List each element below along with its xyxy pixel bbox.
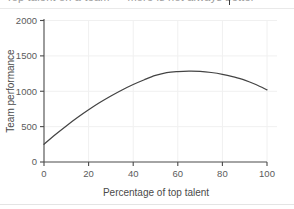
- x-axis-title: Percentage of top talent: [103, 187, 209, 198]
- x-tick-label: 100: [259, 168, 275, 179]
- x-tick-label: 80: [217, 168, 228, 179]
- y-tick-label: 2000: [16, 15, 37, 26]
- x-tick-label: 0: [41, 168, 46, 179]
- y-tick-label: 0: [32, 156, 37, 167]
- x-tick-label: 20: [83, 168, 94, 179]
- y-tick-label: 1000: [16, 86, 37, 97]
- y-axis-title: Team performance: [5, 49, 16, 133]
- team-performance-line-chart: 0500100015002000 020406080100 Team perfo…: [0, 8, 294, 209]
- y-tick-label: 1500: [16, 50, 37, 61]
- chart-screenshot: Top talent on a team — more is not alway…: [0, 0, 294, 209]
- x-tick-label: 40: [128, 168, 139, 179]
- gridlines: [44, 21, 277, 163]
- performance-curve: [44, 71, 267, 144]
- truncated-caption-text: Top talent on a team — more is not alway…: [6, 0, 255, 3]
- truncated-caption-strip: Top talent on a team — more is not alway…: [0, 0, 294, 7]
- x-axis-ticks: 020406080100: [41, 162, 275, 179]
- y-axis-ticks: 0500100015002000: [16, 15, 44, 168]
- bottom-divider: [0, 204, 294, 205]
- x-tick-label: 60: [173, 168, 184, 179]
- text-cursor-icon: [229, 0, 230, 5]
- y-tick-label: 500: [21, 121, 37, 132]
- chart-figure: 0500100015002000 020406080100 Team perfo…: [0, 8, 294, 209]
